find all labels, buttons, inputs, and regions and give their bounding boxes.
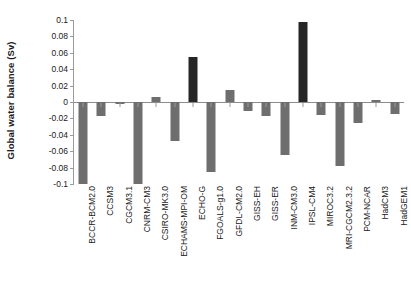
bar-series bbox=[74, 20, 404, 184]
x-tick-mark bbox=[284, 103, 285, 107]
x-tick-mark bbox=[138, 103, 139, 107]
x-tick-label: CCSM3 bbox=[92, 186, 110, 290]
y-tick-label: -0.08 bbox=[28, 163, 68, 173]
bar-slot[interactable] bbox=[312, 20, 330, 184]
x-tick-label: FGOALS-g1.0 bbox=[202, 186, 220, 290]
x-tick-mark bbox=[266, 103, 267, 107]
x-tick-label: HadCM3 bbox=[367, 186, 385, 290]
x-tick-mark bbox=[193, 103, 194, 107]
plot-area bbox=[74, 20, 404, 184]
y-tick-label: 0.04 bbox=[28, 64, 68, 74]
y-tick-label: 0.02 bbox=[28, 81, 68, 91]
bar[interactable] bbox=[225, 90, 234, 102]
bar[interactable] bbox=[189, 57, 198, 102]
bar-slot[interactable] bbox=[386, 20, 404, 184]
x-tick-label: GFDL-CM2.0 bbox=[221, 186, 239, 290]
y-tick-label: -0.1 bbox=[28, 179, 68, 189]
x-tick-label: HadGEM1 bbox=[386, 186, 404, 290]
bar-slot[interactable] bbox=[367, 20, 385, 184]
bar[interactable] bbox=[79, 102, 88, 184]
x-tick-mark bbox=[358, 103, 359, 107]
y-axis-title-text: Global water balance (Sv) bbox=[5, 41, 16, 159]
x-tick-label: CSIRO-MK3.0 bbox=[147, 186, 165, 290]
bar-slot[interactable] bbox=[239, 20, 257, 184]
bar[interactable] bbox=[280, 102, 289, 155]
y-tick-label: -0.02 bbox=[28, 113, 68, 123]
x-tick-mark bbox=[321, 103, 322, 107]
x-tick-label: BCCR-BCM2.0 bbox=[74, 186, 92, 290]
y-tick-label: -0.06 bbox=[28, 146, 68, 156]
x-tick-label: CGCM3.1 bbox=[111, 186, 129, 290]
y-axis-title: Global water balance (Sv) bbox=[0, 0, 20, 200]
x-tick-mark bbox=[376, 103, 377, 107]
bar[interactable] bbox=[152, 97, 161, 102]
y-tick-label: 0.1 bbox=[28, 15, 68, 25]
chart-figure: Global water balance (Sv) 0.10.080.060.0… bbox=[0, 0, 411, 290]
bar-slot[interactable] bbox=[92, 20, 110, 184]
bar-slot[interactable] bbox=[147, 20, 165, 184]
x-tick-label: PCM-NCAR bbox=[349, 186, 367, 290]
x-tick-label: GISS-ER bbox=[257, 186, 275, 290]
y-tick-label: -0.04 bbox=[28, 130, 68, 140]
y-tick-mark bbox=[70, 184, 74, 185]
bar[interactable] bbox=[207, 102, 216, 172]
bar[interactable] bbox=[134, 102, 143, 184]
bar-slot[interactable] bbox=[184, 20, 202, 184]
x-tick-label: INM-CM3.0 bbox=[276, 186, 294, 290]
bar[interactable] bbox=[299, 22, 308, 102]
x-tick-label: GISS-EH bbox=[239, 186, 257, 290]
bar-slot[interactable] bbox=[202, 20, 220, 184]
bar[interactable] bbox=[372, 100, 381, 102]
bar-slot[interactable] bbox=[276, 20, 294, 184]
y-tick-label: 0 bbox=[28, 97, 68, 107]
y-tick-label: 0.08 bbox=[28, 31, 68, 41]
bar-slot[interactable] bbox=[221, 20, 239, 184]
x-tick-mark bbox=[156, 103, 157, 107]
x-tick-label: ECHO-G bbox=[184, 186, 202, 290]
x-tick-mark bbox=[119, 103, 120, 107]
x-tick-mark bbox=[101, 103, 102, 107]
x-tick-label: ECHAMS-MPI-OM bbox=[166, 186, 184, 290]
bar[interactable] bbox=[335, 102, 344, 166]
bar-slot[interactable] bbox=[74, 20, 92, 184]
x-tick-mark bbox=[339, 103, 340, 107]
y-tick-label: 0.06 bbox=[28, 48, 68, 58]
x-axis-tick-labels: BCCR-BCM2.0CCSM3CGCM3.1CNRM-CM3CSIRO-MK3… bbox=[74, 186, 404, 290]
x-tick-mark bbox=[394, 103, 395, 107]
x-tick-label: MIROC3.2 bbox=[312, 186, 330, 290]
x-tick-mark bbox=[229, 103, 230, 107]
x-tick-mark bbox=[248, 103, 249, 107]
bar-slot[interactable] bbox=[294, 20, 312, 184]
x-tick-label: MRI-CGCM2.3.2 bbox=[331, 186, 349, 290]
bar-slot[interactable] bbox=[257, 20, 275, 184]
x-tick-label: CNRM-CM3 bbox=[129, 186, 147, 290]
x-tick-mark bbox=[83, 103, 84, 107]
bar-slot[interactable] bbox=[111, 20, 129, 184]
x-tick-mark bbox=[174, 103, 175, 107]
bar-slot[interactable] bbox=[129, 20, 147, 184]
x-tick-mark bbox=[303, 103, 304, 107]
x-tick-mark bbox=[211, 103, 212, 107]
bar-slot[interactable] bbox=[331, 20, 349, 184]
bar[interactable] bbox=[170, 102, 179, 141]
x-tick-label: IPSL-CM4 bbox=[294, 186, 312, 290]
bar-slot[interactable] bbox=[349, 20, 367, 184]
bar-slot[interactable] bbox=[166, 20, 184, 184]
y-axis-tick-labels: 0.10.080.060.040.020-0.02-0.04-0.06-0.08… bbox=[28, 20, 68, 184]
x-tick-label-text: HadGEM1 bbox=[399, 186, 409, 226]
